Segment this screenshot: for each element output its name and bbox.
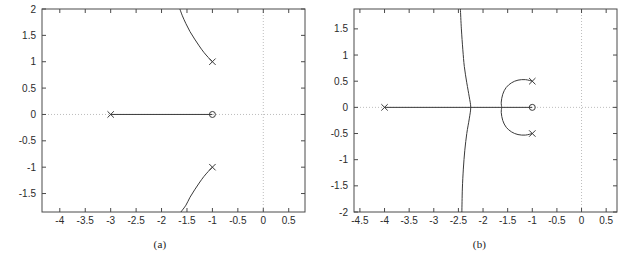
x-tick-label: -4.5: [351, 215, 369, 226]
root-locus-figure: -4-3.5-3-2.5-2-1.5-1-0.500.521.510.50-0.…: [0, 0, 639, 264]
locus-branch-asymptote-branch: [460, 9, 470, 212]
locus-branch-upper-branch: [180, 9, 213, 62]
plot-frame: [42, 9, 305, 212]
x-tick-label: -1.5: [178, 215, 196, 226]
panel-b: -4.5-4-3.5-3-2.5-2-1.5-1-0.500.51.510.50…: [320, 0, 639, 264]
y-tick-label: 1: [30, 56, 36, 67]
y-tick-label: 1.5: [334, 23, 348, 34]
panel-b-caption: (b): [320, 238, 639, 250]
x-tick-label: -0.5: [548, 215, 566, 226]
x-tick-label: -0.5: [229, 215, 247, 226]
panel-a: -4-3.5-3-2.5-2-1.5-1-0.500.521.510.50-0.…: [0, 0, 320, 264]
y-tick-label: -1: [339, 154, 348, 165]
root-locus-plot-a: -4-3.5-3-2.5-2-1.5-1-0.500.521.510.50-0.…: [0, 0, 320, 264]
y-tick-label: -2: [339, 207, 348, 218]
x-tick-label: -1.5: [499, 215, 517, 226]
y-tick-label: -1.5: [331, 180, 349, 191]
x-tick-label: 0: [261, 215, 267, 226]
y-tick-label: -1: [27, 162, 36, 173]
x-tick-label: 0.5: [282, 215, 296, 226]
pole-marker: [529, 130, 535, 136]
locus-curves: [381, 9, 535, 212]
x-tick-label: -3.5: [401, 215, 419, 226]
x-tick-label: -1: [208, 215, 217, 226]
x-tick-label: -4: [55, 215, 64, 226]
y-tick-label: 0: [342, 102, 348, 113]
y-tick-label: -1.5: [19, 188, 37, 199]
y-tick-label: 1: [342, 50, 348, 61]
pole-marker: [209, 164, 215, 170]
locus-branch-lower-branch: [181, 167, 213, 212]
locus-curves: [107, 9, 215, 212]
plot-frame: [354, 9, 617, 212]
x-tick-label: 0: [579, 215, 585, 226]
x-tick-label: -3: [106, 215, 115, 226]
y-tick-label: 2: [30, 4, 36, 15]
x-tick-label: -2.5: [127, 215, 145, 226]
x-tick-label: -3: [429, 215, 438, 226]
pole-marker: [209, 59, 215, 65]
pole-marker: [529, 78, 535, 84]
panel-a-caption: (a): [0, 238, 320, 250]
locus-branch-lower-arc: [501, 107, 532, 135]
y-tick-label: 1.5: [22, 30, 36, 41]
x-tick-label: -1: [528, 215, 537, 226]
y-tick-label: -0.5: [331, 128, 349, 139]
x-tick-label: 0.5: [599, 215, 613, 226]
y-tick-label: 0.5: [334, 76, 348, 87]
x-tick-label: -4: [380, 215, 389, 226]
y-tick-label: 0.5: [22, 83, 36, 94]
root-locus-plot-b: -4.5-4-3.5-3-2.5-2-1.5-1-0.500.51.510.50…: [320, 0, 639, 264]
x-tick-label: -3.5: [77, 215, 95, 226]
y-tick-label: -0.5: [19, 135, 37, 146]
x-tick-label: -2: [157, 215, 166, 226]
x-tick-label: -2.5: [450, 215, 468, 226]
y-tick-label: 0: [30, 109, 36, 120]
locus-branch-upper-arc: [501, 80, 532, 108]
x-tick-label: -2: [479, 215, 488, 226]
